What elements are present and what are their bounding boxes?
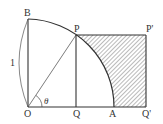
label-O: O [24,108,31,119]
hatched-region [70,30,150,110]
label-Pprime: P' [146,23,154,34]
label-length-1: 1 [10,57,15,68]
segment-OP [28,35,76,107]
quarter-arc-BA [28,19,114,107]
length-brace-arc [19,19,28,107]
label-A: A [109,108,117,119]
label-theta: θ [44,96,49,106]
angle-arc-theta [36,96,42,108]
label-B: B [24,7,31,18]
label-P: P [74,23,80,34]
label-Q: Q [73,108,81,119]
geometry-diagram: B P P' O Q A Q' θ 1 [0,0,163,124]
label-Qprime: Q' [142,108,151,119]
